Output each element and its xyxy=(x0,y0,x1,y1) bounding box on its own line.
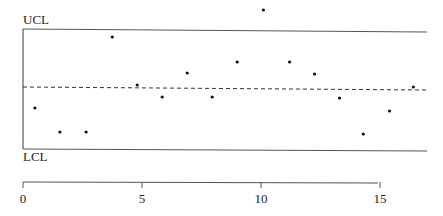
data-point xyxy=(111,35,114,38)
data-point xyxy=(161,95,164,98)
lcl-line xyxy=(23,149,427,151)
x-axis-line xyxy=(23,182,378,183)
x-tick-label: 10 xyxy=(255,191,268,206)
data-points xyxy=(33,8,415,135)
ucl-line xyxy=(23,29,427,32)
x-tick-label: 15 xyxy=(374,191,387,206)
x-axis-ticks: 051015 xyxy=(20,182,387,206)
data-point xyxy=(412,85,415,88)
x-tick-label: 5 xyxy=(139,191,146,206)
center-line xyxy=(23,87,427,90)
data-point xyxy=(211,95,214,98)
data-point xyxy=(236,60,239,63)
lcl-label: LCL xyxy=(23,149,48,164)
data-point xyxy=(262,8,265,11)
data-point xyxy=(136,83,139,86)
data-point xyxy=(58,130,61,133)
x-tick-label: 0 xyxy=(20,191,27,206)
data-point xyxy=(313,72,316,75)
data-point xyxy=(85,130,88,133)
data-point xyxy=(338,96,341,99)
ucl-label: UCL xyxy=(23,12,49,27)
control-chart: UCL LCL 051015 xyxy=(0,0,443,216)
data-point xyxy=(288,60,291,63)
data-point xyxy=(186,71,189,74)
data-point xyxy=(33,106,36,109)
data-point xyxy=(388,109,391,112)
data-point xyxy=(362,132,365,135)
